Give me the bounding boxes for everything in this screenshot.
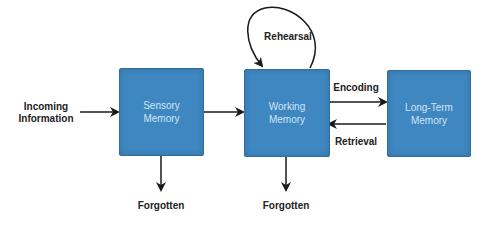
working-memory-box: Working Memory <box>244 69 330 157</box>
incoming-information-label: Incoming Information <box>14 101 78 125</box>
sensory-memory-label: Sensory Memory <box>143 99 180 125</box>
forgotten-working-label: Forgotten <box>256 200 316 212</box>
encoding-label: Encoding <box>330 82 382 94</box>
long-term-memory-box: Long-Term Memory <box>387 70 471 157</box>
working-memory-label: Working Memory <box>269 100 306 126</box>
long-term-memory-label: Long-Term Memory <box>405 101 453 127</box>
rehearsal-label: Rehearsal <box>258 31 318 43</box>
sensory-memory-box: Sensory Memory <box>119 68 204 156</box>
retrieval-label: Retrieval <box>330 136 382 148</box>
forgotten-sensory-label: Forgotten <box>131 200 191 212</box>
